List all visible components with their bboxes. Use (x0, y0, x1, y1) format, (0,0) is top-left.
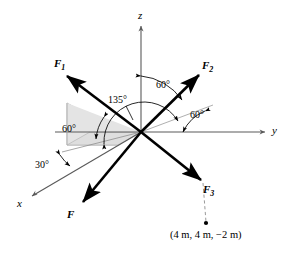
coordinate-point-label: (4 m, 4 m, −2 m) (170, 230, 242, 241)
angle-label-60-from-y: 60° (190, 110, 204, 120)
force-label-F: F (67, 209, 74, 223)
axis-label-z: z (138, 10, 142, 21)
vector-F3 (141, 132, 201, 180)
angle-label-30: 30° (35, 160, 49, 170)
leader-135 (126, 106, 133, 120)
angle-label-60-plane: 60° (62, 124, 76, 134)
force-label-F2-sub: 2 (209, 65, 213, 74)
label-leaders (126, 106, 133, 120)
force-label-F2: F2 (202, 60, 213, 74)
force-label-F-base: F (67, 208, 74, 220)
vector-F2 (141, 75, 199, 132)
arc-30 (60, 155, 70, 166)
axis-label-x: x (17, 198, 22, 209)
angle-label-135: 135° (108, 95, 127, 105)
axis-label-y: y (272, 125, 277, 136)
force-label-F1: F1 (54, 58, 65, 72)
force-label-F3-sub: 3 (210, 189, 214, 198)
coordinate-point-dot (204, 221, 208, 225)
force-label-F3: F3 (203, 184, 214, 198)
diagram-canvas (0, 0, 291, 253)
force-label-F1-sub: 1 (61, 63, 65, 72)
angle-label-60-from-z: 60° (156, 80, 170, 90)
force-diagram-figure: z y x F1 F2 F3 F 60° 135° 60° 60° 30° (4… (0, 0, 291, 253)
